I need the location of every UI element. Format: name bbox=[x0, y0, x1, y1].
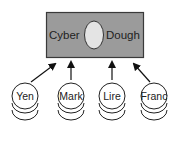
franc-label: Franc bbox=[141, 90, 168, 102]
coin-stack-mark: Mark bbox=[58, 83, 84, 120]
arrows bbox=[31, 62, 150, 82]
yen-label: Yen bbox=[16, 90, 34, 102]
lire-label: Lire bbox=[103, 90, 121, 102]
cyber-label: Cyber bbox=[49, 29, 80, 41]
cyber-dough-box: Cyber Dough bbox=[47, 13, 144, 58]
coin-stack-yen: Yen bbox=[12, 83, 38, 120]
arrow-yen bbox=[31, 64, 55, 82]
coin-stack-lire: Lire bbox=[99, 83, 125, 120]
cyber-dough-diagram: Cyber Dough Yen Mark Lire Franc bbox=[0, 0, 178, 143]
mark-label: Mark bbox=[59, 90, 83, 102]
arrow-franc bbox=[134, 64, 150, 82]
coin-ellipse-icon bbox=[85, 21, 104, 49]
coin-stack-franc: Franc bbox=[141, 83, 168, 120]
dough-label: Dough bbox=[106, 29, 140, 41]
